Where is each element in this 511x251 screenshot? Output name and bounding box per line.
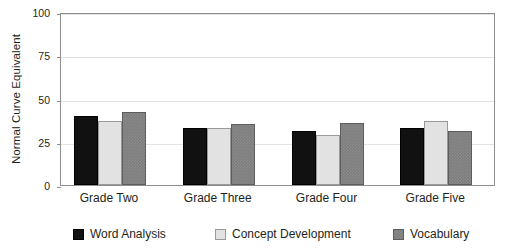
- x-axis-category-labels: Grade TwoGrade ThreeGrade FourGrade Five: [60, 190, 495, 210]
- legend-swatch-icon: [215, 229, 226, 240]
- legend-label: Vocabulary: [410, 227, 469, 241]
- bar: [183, 128, 207, 185]
- bar: [340, 123, 364, 185]
- x-axis-label-grade-three: Grade Three: [158, 190, 278, 206]
- legend-label: Concept Development: [232, 227, 351, 241]
- x-axis-label-grade-two: Grade Two: [49, 190, 169, 206]
- bar: [231, 124, 255, 185]
- gridline: [61, 14, 494, 15]
- y-tick-mark: [57, 187, 61, 188]
- bar: [98, 121, 122, 185]
- legend-item-vocabulary[interactable]: Vocabulary: [393, 225, 469, 243]
- bar: [316, 135, 340, 185]
- y-tick-mark: [57, 57, 61, 58]
- gridline: [61, 101, 494, 102]
- bar: [424, 121, 448, 185]
- bar: [448, 131, 472, 185]
- bar: [74, 116, 98, 185]
- plot-area: [61, 14, 494, 185]
- chart-legend: Word AnalysisConcept DevelopmentVocabula…: [60, 225, 495, 247]
- y-axis-tick-labels: 0255075100: [0, 13, 56, 186]
- plot-frame: [60, 13, 495, 186]
- bar: [207, 128, 231, 185]
- y-tick-label: 100: [32, 8, 50, 18]
- bar-chart: Normal Curve Equivalent 0255075100 Grade…: [0, 0, 511, 251]
- bar: [400, 128, 424, 185]
- x-axis-label-grade-five: Grade Five: [375, 190, 495, 206]
- bar: [292, 131, 316, 185]
- y-tick-mark: [57, 144, 61, 145]
- legend-item-word-analysis[interactable]: Word Analysis: [73, 225, 166, 243]
- bar: [122, 112, 146, 185]
- y-tick-label: 50: [38, 95, 50, 105]
- y-tick-mark: [57, 101, 61, 102]
- legend-swatch-icon: [393, 229, 404, 240]
- legend-swatch-icon: [73, 229, 84, 240]
- x-axis-label-grade-four: Grade Four: [267, 190, 387, 206]
- gridline: [61, 57, 494, 58]
- y-tick-mark: [57, 14, 61, 15]
- y-tick-label: 25: [38, 138, 50, 148]
- chart-title: [60, 0, 495, 6]
- legend-label: Word Analysis: [90, 227, 166, 241]
- legend-item-concept-development[interactable]: Concept Development: [215, 225, 351, 243]
- y-tick-label: 75: [38, 51, 50, 61]
